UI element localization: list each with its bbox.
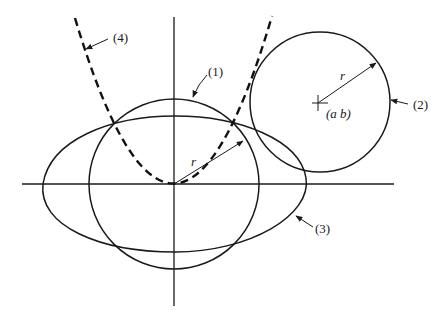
leader-2 [391,100,408,104]
leader-1 [193,75,207,97]
label-curve-2: (2) [413,97,428,112]
conic-sections-diagram: r r (a b) (1) (2) (3) (4) [0,0,441,321]
radius-label-1: r [191,154,197,169]
radius-arrow-1 [174,141,243,184]
diagram-canvas: r r (a b) (1) (2) (3) (4) [0,0,441,321]
leader-3 [296,216,313,227]
label-curve-4: (4) [113,30,128,45]
radius-arrow-2 [318,63,376,103]
leader-4 [86,39,108,49]
label-curve-3: (3) [315,221,330,236]
radius-label-2: r [340,68,346,83]
center-label-2: (a b) [326,106,351,121]
label-curve-1: (1) [208,64,223,79]
